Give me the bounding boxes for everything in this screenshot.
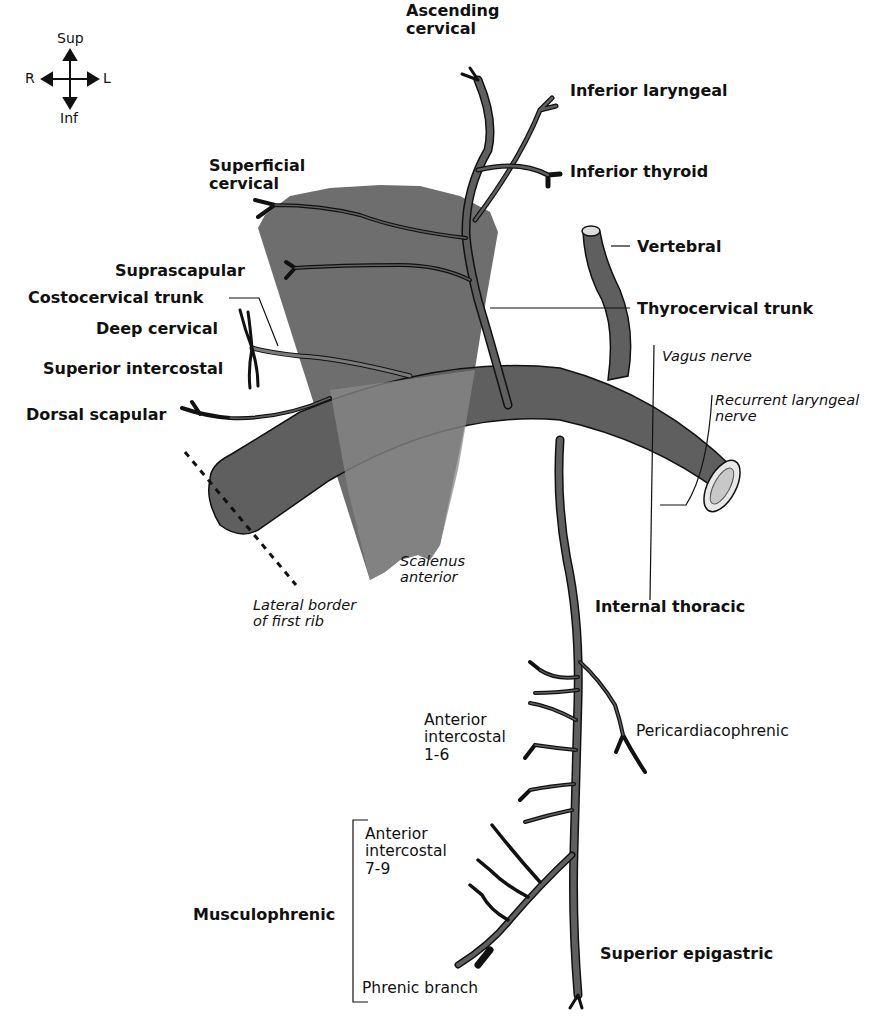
label-superficial-cervical: Superficial cervical <box>209 157 305 193</box>
label-thyrocervical-trunk: Thyrocervical trunk <box>637 300 813 318</box>
label-inferior-thyroid: Inferior thyroid <box>570 163 708 181</box>
label-scalenus-anterior: Scalenus anterior <box>400 553 465 585</box>
label-superior-epigastric: Superior epigastric <box>600 945 773 963</box>
label-lateral-border-first-rib: Lateral border of first rib <box>253 597 356 629</box>
label-dorsal-scapular: Dorsal scapular <box>26 406 166 424</box>
label-suprascapular: Suprascapular <box>115 262 245 280</box>
label-internal-thoracic: Internal thoracic <box>595 598 745 616</box>
label-inferior-laryngeal: Inferior laryngeal <box>570 82 728 100</box>
label-deep-cervical: Deep cervical <box>96 320 218 338</box>
compass-sup-label: Sup <box>57 30 84 46</box>
vertebral-artery <box>583 232 631 380</box>
subclavian-artery <box>209 366 735 534</box>
compass-inf-label: Inf <box>60 110 78 126</box>
label-superior-intercostal: Superior intercostal <box>43 360 223 378</box>
label-musculophrenic: Musculophrenic <box>193 906 335 924</box>
label-vagus-nerve: Vagus nerve <box>662 348 752 364</box>
label-ascending-cervical: Ascending cervical <box>406 2 499 38</box>
orientation-compass-icon <box>42 50 98 108</box>
label-pericardiacophrenic: Pericardiacophrenic <box>636 723 789 740</box>
compass-l-label: L <box>103 70 111 86</box>
label-vertebral: Vertebral <box>637 238 721 256</box>
compass-r-label: R <box>25 70 35 86</box>
scalenus-overlap <box>330 370 475 580</box>
label-anterior-intercostal-1-6: Anterior intercostal 1-6 <box>424 712 506 764</box>
label-recurrent-laryngeal-nerve: Recurrent laryngeal nerve <box>715 392 859 424</box>
label-costocervical-trunk: Costocervical trunk <box>28 289 203 307</box>
label-anterior-intercostal-7-9: Anterior intercostal 7-9 <box>365 826 447 878</box>
label-phrenic-branch: Phrenic branch <box>362 980 478 997</box>
